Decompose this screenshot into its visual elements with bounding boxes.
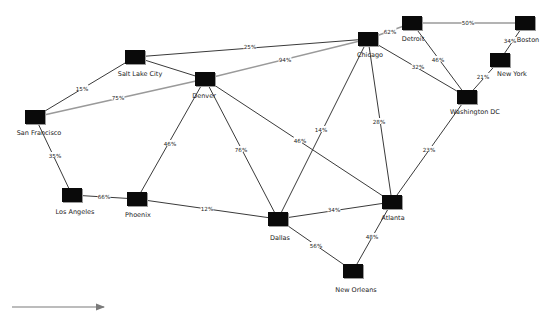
- node-box: [25, 110, 45, 124]
- node-label-ny: New York: [497, 70, 527, 78]
- edge-label-atl-no: 48%: [366, 234, 378, 240]
- node-box: [195, 72, 215, 86]
- node-box: [268, 212, 288, 226]
- node-ny[interactable]: New York: [490, 53, 527, 78]
- edge-label-chi-atl: 28%: [373, 119, 385, 125]
- node-la[interactable]: Los Angeles: [56, 188, 95, 216]
- edge-label-dal-no: 56%: [310, 243, 322, 249]
- node-dc[interactable]: Washington DC: [450, 90, 500, 116]
- node-label-atl: Atlanta: [381, 214, 404, 222]
- edge-label-den-atl: 46%: [294, 138, 306, 144]
- node-box: [490, 53, 510, 67]
- node-box: [457, 90, 477, 104]
- node-phx[interactable]: Phoenix: [125, 192, 151, 219]
- node-label-chi: Chicago: [357, 51, 383, 59]
- network-diagram: 15%75%25%94%35%46%76%46%66%12%14%28%62%3…: [0, 0, 554, 312]
- node-label-dal: Dallas: [270, 234, 291, 242]
- edge-label-den-dal: 76%: [235, 147, 247, 153]
- edge-label-dal-atl: 34%: [328, 207, 340, 213]
- node-label-det: Detroit: [402, 35, 425, 43]
- node-box: [125, 50, 145, 64]
- node-box: [382, 195, 402, 209]
- edge-label-chi-dc: 32%: [412, 64, 424, 70]
- edge-label-la-phx: 66%: [98, 194, 110, 200]
- edge-label-sf-la: 35%: [49, 153, 61, 159]
- edge-label-phx-dal: 12%: [201, 206, 213, 212]
- node-box: [402, 16, 422, 30]
- node-box: [358, 32, 378, 46]
- node-no[interactable]: New Orleans: [335, 264, 377, 294]
- node-sf[interactable]: San Francisco: [17, 110, 62, 137]
- node-label-la: Los Angeles: [56, 208, 95, 216]
- edge-label-bos-ny: 34%: [504, 38, 516, 44]
- edge-label-chi-det: 62%: [384, 29, 396, 35]
- edge-label-dc-atl: 23%: [423, 147, 435, 153]
- node-label-sf: San Francisco: [17, 129, 62, 137]
- node-box: [62, 188, 82, 202]
- node-label-no: New Orleans: [335, 286, 377, 294]
- node-den[interactable]: Denver: [192, 72, 216, 100]
- node-box: [515, 16, 535, 30]
- edge-label-den-phx: 46%: [164, 141, 176, 147]
- node-label-slc: Salt Lake City: [118, 70, 163, 78]
- node-box: [127, 192, 147, 206]
- node-det[interactable]: Detroit: [402, 16, 425, 43]
- node-label-dc: Washington DC: [450, 108, 500, 116]
- node-label-bos: Boston: [517, 36, 539, 44]
- edge-label-ny-dc: 21%: [477, 74, 489, 80]
- edge-label-chi-dal: 14%: [315, 127, 327, 133]
- node-label-phx: Phoenix: [125, 211, 151, 219]
- node-dal[interactable]: Dallas: [268, 212, 291, 242]
- edge-label-den-chi: 94%: [279, 57, 291, 63]
- node-bos[interactable]: Boston: [515, 16, 539, 44]
- node-label-den: Denver: [192, 92, 216, 100]
- node-atl[interactable]: Atlanta: [381, 195, 404, 222]
- node-box: [343, 264, 363, 278]
- edge-label-sf-den: 75%: [112, 95, 124, 101]
- edge-label-slc-chi: 25%: [244, 44, 256, 50]
- diagram-svg: 15%75%25%94%35%46%76%46%66%12%14%28%62%3…: [0, 0, 554, 312]
- edge-label-det-bos: 50%: [462, 20, 474, 26]
- edge-label-det-dc: 46%: [432, 57, 444, 63]
- edge-label-sf-slc: 15%: [76, 86, 88, 92]
